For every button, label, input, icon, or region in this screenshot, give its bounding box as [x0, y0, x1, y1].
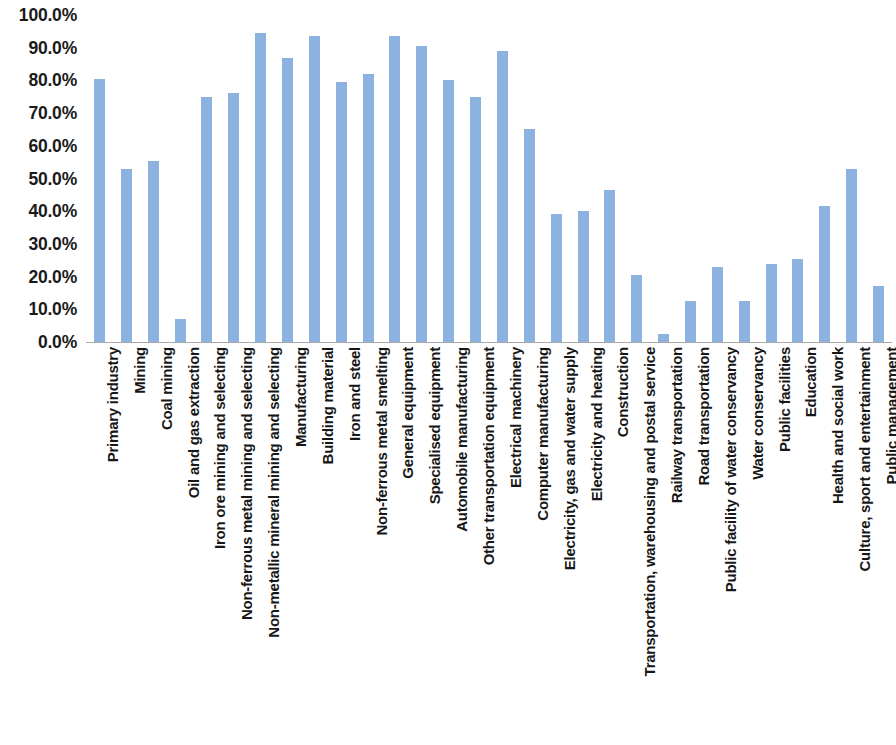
y-tick-label: 60.0%	[28, 138, 77, 156]
bar	[873, 286, 884, 342]
x-tick-label: Primary industry	[105, 347, 120, 462]
bar	[255, 33, 266, 342]
bar	[551, 214, 562, 342]
bar	[846, 169, 857, 342]
y-tick-label: 80.0%	[28, 73, 77, 91]
x-tick-label: Road transportation	[696, 347, 711, 486]
x-tick-label: Public facilities	[777, 347, 792, 452]
bar	[363, 74, 374, 342]
x-tick-label: Water conservancy	[750, 347, 765, 480]
bar	[282, 58, 293, 342]
x-tick-label: Public management	[884, 347, 896, 484]
y-tick-label: 20.0%	[28, 269, 77, 287]
x-tick-label: Automobile manufacturing	[454, 347, 469, 532]
bar	[94, 79, 105, 342]
x-tick-label: Iron and steel	[347, 347, 362, 441]
x-tick-label: Education	[803, 347, 818, 417]
x-tick-label: Manufacturing	[293, 347, 308, 447]
x-tick-label: Specialised equipment	[427, 347, 442, 504]
bar	[658, 334, 669, 342]
bar	[739, 301, 750, 342]
bar	[175, 319, 186, 342]
bar	[685, 301, 696, 342]
y-axis: 100.0%90.0%80.0%70.0%60.0%50.0%40.0%30.0…	[0, 0, 86, 360]
bar	[524, 129, 535, 342]
bar	[309, 36, 320, 342]
y-tick-label: 0.0%	[38, 334, 77, 352]
x-axis: Primary industryMiningCoal miningOil and…	[86, 347, 892, 745]
bar	[228, 93, 239, 342]
bar	[766, 264, 777, 342]
bar	[416, 46, 427, 342]
y-tick-label: 100.0%	[19, 7, 77, 25]
y-tick-label: 40.0%	[28, 203, 77, 221]
y-tick-label: 90.0%	[28, 40, 77, 58]
x-tick-label: Non-metallic mineral mining and selectin…	[266, 347, 281, 638]
bar	[792, 259, 803, 342]
bar	[631, 275, 642, 342]
x-tick-label: Railway transportation	[669, 347, 684, 503]
bar	[148, 161, 159, 342]
bar	[819, 206, 830, 342]
bar	[201, 97, 212, 342]
x-tick-label: Mining	[132, 347, 147, 394]
x-tick-label: General equipment	[400, 347, 415, 479]
x-tick-label: Oil and gas extraction	[186, 347, 201, 498]
x-tick-label: Other transportation equipment	[481, 347, 496, 565]
y-tick-label: 50.0%	[28, 171, 77, 189]
bar	[497, 51, 508, 342]
bar	[578, 211, 589, 342]
x-tick-label: Health and social work	[830, 347, 845, 504]
x-tick-label: Transportation, warehousing and postal s…	[642, 347, 657, 676]
bar	[121, 169, 132, 342]
bar	[604, 190, 615, 342]
x-tick-label: Electrical machinery	[508, 347, 523, 488]
y-tick-label: 30.0%	[28, 236, 77, 254]
x-tick-label: Electricity and heating	[589, 347, 604, 501]
x-tick-label: Non-ferrous metal smelting	[374, 347, 389, 536]
bar	[336, 82, 347, 342]
x-tick-label: Construction	[615, 347, 630, 437]
y-tick-label: 10.0%	[28, 302, 77, 320]
x-tick-label: Electricity, gas and water supply	[562, 347, 577, 570]
x-tick-label: Culture, sport and entertainment	[857, 347, 872, 572]
y-tick-label: 70.0%	[28, 105, 77, 123]
bar	[470, 97, 481, 342]
bar	[389, 36, 400, 342]
bar	[443, 80, 454, 342]
x-tick-label: Public facility of water conservancy	[723, 347, 738, 592]
bar	[712, 267, 723, 342]
bar-chart: 100.0%90.0%80.0%70.0%60.0%50.0%40.0%30.0…	[0, 0, 896, 745]
plot-area	[86, 16, 892, 343]
x-tick-label: Building material	[320, 347, 335, 464]
x-tick-label: Computer manufacturing	[535, 347, 550, 521]
x-tick-label: Coal mining	[159, 347, 174, 430]
x-tick-label: Iron ore mining and selecting	[212, 347, 227, 549]
x-tick-label: Non-ferrous metal mining and selecting	[239, 347, 254, 620]
